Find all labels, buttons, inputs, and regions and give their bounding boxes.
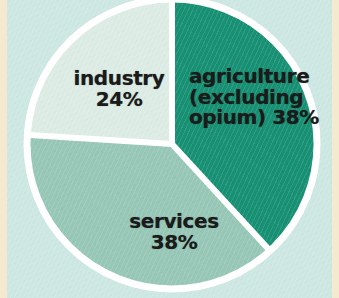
slice-label-industry: industry 24% [63,68,175,109]
plot-area: agriculture (excluding opium) 38% indust… [7,0,332,298]
slice-label-agriculture: agriculture (excluding opium) 38% [189,66,325,128]
slice-label-services: services 38% [115,211,233,252]
pie-chart-figure: agriculture (excluding opium) 38% indust… [0,0,339,298]
